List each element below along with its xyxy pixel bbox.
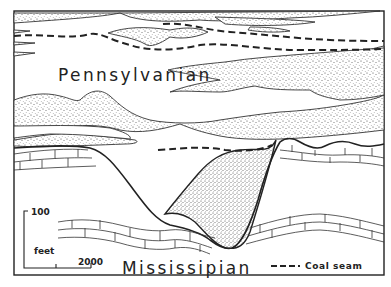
coal-seam-legend-label: Coal seam (305, 261, 362, 271)
mississipian-label: Mississipian (122, 258, 252, 278)
scale-unit: feet (34, 246, 55, 256)
scale-vertical-value: 100 (31, 207, 50, 217)
pennsylvanian-label: Pennsylvanian (58, 65, 212, 85)
scale-horizontal-value: 2000 (78, 257, 103, 267)
geologic-cross-section: Pennsylvanian Mississipian 100 feet 2000… (0, 0, 391, 287)
